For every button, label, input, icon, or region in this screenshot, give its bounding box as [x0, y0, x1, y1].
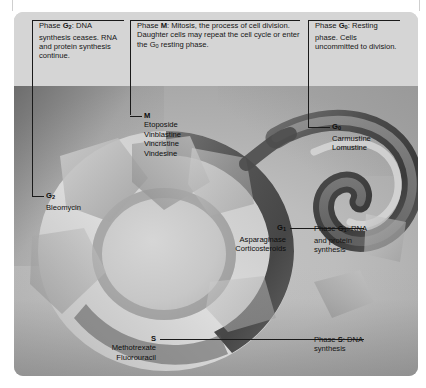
leader-line-m: [130, 20, 131, 115]
drug-label-s-phase: S: [80, 334, 156, 343]
caption-phase-g2: Phase G2: DNA synthesis ceases. RNA and …: [32, 20, 124, 60]
drug-label-g2-phase: G2: [46, 191, 81, 203]
drug-label-m-drug-1: Vinblastine: [144, 130, 181, 139]
figure-panel: Phase G2: DNA synthesis ceases. RNA and …: [14, 12, 418, 376]
drug-label-g0-drug-1: Lomustine: [332, 143, 371, 152]
side-callout-s-line-1: synthesis: [314, 344, 363, 353]
drug-label-g1-drug-1: Corticosteroids: [210, 244, 286, 253]
elbow-g0: [308, 127, 330, 128]
drug-label-s-drug-0: Methotrexate: [80, 343, 156, 352]
drug-label-g0-phase: G0: [332, 122, 371, 134]
side-callout-s-line-0: Phase S: DNA: [314, 335, 363, 344]
side-callout-g1: Phase G1: RNA and protein synthesis: [314, 224, 367, 254]
page-rule-right: [419, 0, 420, 11]
caption-phase-m: Phase M: Mitosis, the process of cell di…: [130, 20, 300, 51]
drug-label-m-drug-0: Etoposide: [144, 120, 181, 129]
drug-label-s: S Methotrexate Fluorouracil: [80, 334, 156, 362]
caption-g0-text: Phase G0: Resting phase. Cells uncommitt…: [315, 21, 396, 51]
drug-label-m: M Etoposide Vinblastine Vincristine Vind…: [144, 111, 181, 158]
drug-label-m-drug-3: Vindesine: [144, 149, 181, 158]
caption-phase-g0: Phase G0: Resting phase. Cells uncommitt…: [308, 20, 400, 51]
caption-g2-text: Phase G2: DNA synthesis ceases. RNA and …: [39, 21, 117, 60]
drug-label-m-phase: M: [144, 111, 181, 120]
clipped-document-line: · · · · ·: [0, 0, 426, 11]
side-callout-g1-line-2: synthesis: [314, 245, 367, 254]
drug-label-g2-drug-0: Bleomycin: [46, 203, 81, 212]
drug-label-g2: G2 Bleomycin: [46, 191, 81, 212]
leader-line-g2: [32, 20, 33, 196]
drug-label-m-drug-2: Vincristine: [144, 139, 181, 148]
drug-label-g1-drug-0: Asparaginase: [210, 235, 286, 244]
drug-label-g1-phase: G1: [210, 223, 286, 235]
page-rule-left: [12, 0, 13, 11]
elbow-m: [130, 116, 142, 117]
elbow-g2: [32, 196, 44, 197]
side-callout-g1-line-1: and protein: [314, 236, 367, 245]
leader-line-g0: [308, 20, 309, 127]
drug-label-g0: G0 Carmustine Lomustine: [332, 122, 371, 152]
side-callout-g1-line-0: Phase G1: RNA: [314, 224, 367, 236]
caption-m-text: Phase M: Mitosis, the process of cell di…: [137, 21, 300, 49]
side-callout-s: Phase S: DNA synthesis: [314, 335, 363, 354]
drug-label-g0-drug-0: Carmustine: [332, 134, 371, 143]
drug-label-g1: G1 Asparaginase Corticosteroids: [210, 223, 286, 253]
drug-label-s-drug-1: Fluorouracil: [80, 353, 156, 362]
